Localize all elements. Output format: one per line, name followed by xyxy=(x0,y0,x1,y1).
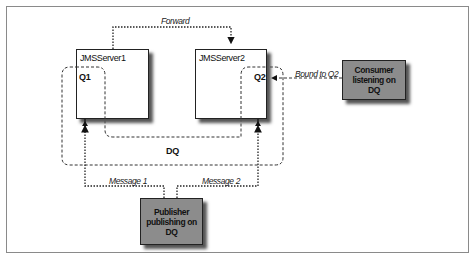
dq-label: DQ xyxy=(166,146,179,156)
jms-server1-box: JMSServer1 xyxy=(76,49,149,119)
connectors-layer xyxy=(0,0,476,261)
jms-server2-box: JMSServer2 xyxy=(195,49,267,119)
bound-label: Bound to Q2 xyxy=(295,69,338,79)
jms-server1-title: JMSServer1 xyxy=(80,53,126,63)
consumer-box: Consumer listening on DQ xyxy=(342,60,406,100)
publisher-box: Publisher publishing on DQ xyxy=(140,198,203,245)
consumer-label: Consumer listening on DQ xyxy=(353,65,396,95)
message1-label: Message 1 xyxy=(109,176,147,186)
queue-q1-label: Q1 xyxy=(79,72,90,82)
queue-q2-label: Q2 xyxy=(254,72,265,82)
forward-label: Forward xyxy=(161,16,189,26)
publisher-label: Publisher publishing on DQ xyxy=(146,207,197,237)
jms-server2-title: JMSServer2 xyxy=(199,53,245,63)
forward-connector xyxy=(113,27,231,49)
message2-label: Message 2 xyxy=(202,176,240,186)
